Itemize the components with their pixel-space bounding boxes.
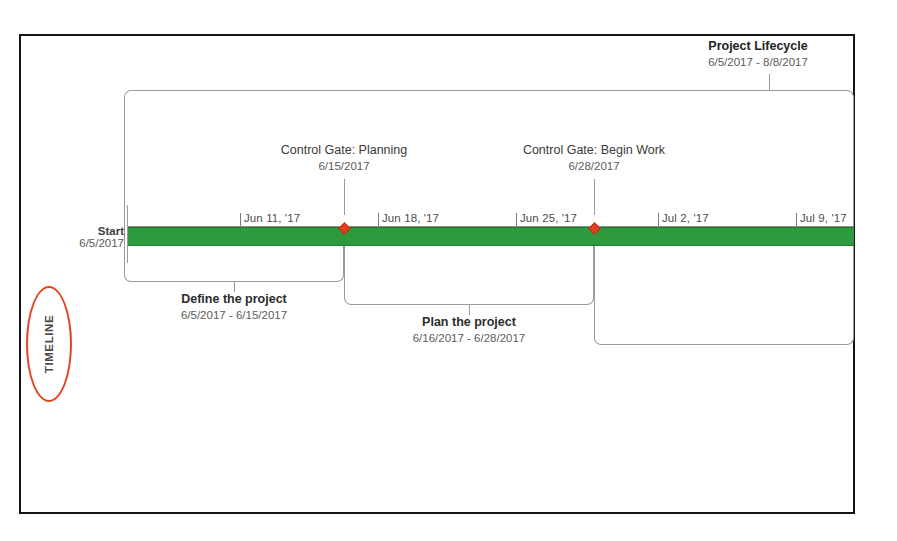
- project-lifecycle-stem: [769, 74, 770, 91]
- axis-tick: [240, 213, 241, 227]
- timeline-tab-label[interactable]: TIMELINE: [43, 315, 55, 373]
- task-name: Define the project: [134, 291, 334, 307]
- milestone-callout-begin-work: Control Gate: Begin Work 6/28/2017: [494, 142, 694, 174]
- timeline-tab-annotation: TIMELINE: [26, 286, 72, 402]
- project-lifecycle-header: Project Lifecycle 6/5/2017 - 8/8/2017: [663, 38, 853, 70]
- milestone-stem-begin-work: [594, 179, 595, 215]
- milestone-stem-planning: [344, 179, 345, 215]
- milestone-name: Control Gate: Begin Work: [494, 142, 694, 158]
- axis-tick: [796, 213, 797, 227]
- axis-tick: [378, 213, 379, 227]
- axis-tick-label: Jul 2, '17: [662, 212, 709, 224]
- milestone-callout-planning: Control Gate: Planning 6/15/2017: [244, 142, 444, 174]
- start-title: Start: [40, 225, 124, 237]
- task-bracket-trailing: [594, 246, 854, 345]
- axis-tick-label: Jun 18, '17: [382, 212, 439, 224]
- axis-tick-label: Jun 25, '17: [520, 212, 577, 224]
- task-callout-define-the-project: Define the project 6/5/2017 - 6/15/2017: [134, 291, 334, 323]
- timeline-bar[interactable]: [128, 227, 854, 246]
- task-bracket-plan-the-project: [344, 246, 594, 305]
- axis-tick: [658, 213, 659, 227]
- start-date: 6/5/2017: [40, 237, 124, 249]
- axis-tick-label: Jul 9, '17: [800, 212, 847, 224]
- task-dates: 6/16/2017 - 6/28/2017: [369, 330, 569, 346]
- axis-tick: [516, 213, 517, 227]
- task-bracket-define-the-project: [124, 246, 344, 282]
- axis-tick-label: Jun 11, '17: [244, 212, 300, 224]
- task-name: Plan the project: [369, 314, 569, 330]
- project-lifecycle-dates: 6/5/2017 - 8/8/2017: [663, 54, 853, 70]
- timeline-start-label: Start 6/5/2017: [40, 225, 124, 249]
- milestone-name: Control Gate: Planning: [244, 142, 444, 158]
- milestone-date: 6/28/2017: [494, 158, 694, 174]
- task-dates: 6/5/2017 - 6/15/2017: [134, 307, 334, 323]
- task-callout-plan-the-project: Plan the project 6/16/2017 - 6/28/2017: [369, 314, 569, 346]
- milestone-date: 6/15/2017: [244, 158, 444, 174]
- project-lifecycle-title: Project Lifecycle: [663, 38, 853, 54]
